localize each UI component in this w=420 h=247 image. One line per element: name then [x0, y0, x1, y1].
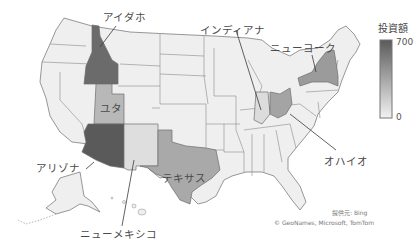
- legend-title: 投資額: [378, 20, 408, 35]
- state-alaska: [46, 172, 100, 214]
- state-arizona[interactable]: [82, 124, 124, 168]
- label-indiana: インディアナ: [200, 22, 265, 37]
- legend-min-value: 0: [396, 112, 402, 122]
- label-new-york: ニューヨーク: [270, 40, 336, 55]
- legend-gradient: [380, 40, 392, 118]
- state-new-mexico[interactable]: [124, 124, 158, 170]
- label-arizona: アリゾナ: [36, 160, 80, 175]
- attribution-copyright: © GeoNames, Microsoft, TomTom: [274, 219, 374, 226]
- attribution-provider: 提供元: Bing: [332, 208, 367, 217]
- state-hawaii: [111, 197, 146, 215]
- label-new-mexico: ニューメキシコ: [80, 226, 157, 241]
- alaska-aleutians: [18, 214, 56, 224]
- label-idaho: アイダホ: [103, 9, 146, 24]
- label-utah: ユタ: [100, 100, 122, 115]
- legend-max-value: 700: [396, 37, 413, 47]
- label-texas: テキサス: [162, 170, 206, 185]
- label-ohio: オハイオ: [324, 153, 368, 168]
